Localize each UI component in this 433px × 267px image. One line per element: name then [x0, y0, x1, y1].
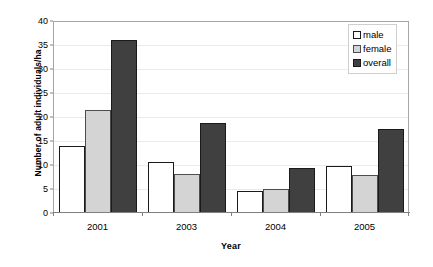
y-axis-tick-labels: 0510152025303540 [26, 0, 48, 267]
legend-label: female [363, 44, 392, 54]
x-axis-tick-mark [320, 213, 321, 216]
bar-female-2003 [174, 174, 200, 213]
legend-swatch-female-icon [353, 45, 361, 53]
bar-overall-2001 [111, 40, 137, 213]
bar-male-2001 [59, 146, 85, 213]
legend-swatch-male-icon [353, 31, 361, 39]
legend-item-male[interactable]: male [353, 28, 392, 42]
x-axis-tick-mark [142, 213, 143, 216]
x-axis-tick-mark [408, 213, 409, 216]
bar-chart: Number of adult individuals/ha 051015202… [0, 0, 433, 267]
x-axis-title: Year [53, 241, 409, 251]
legend-label: male [363, 30, 384, 40]
x-axis-tick-marks [53, 213, 409, 217]
y-axis-tick-label: 15 [26, 137, 48, 146]
bar-overall-2004 [289, 168, 315, 213]
bar-female-2004 [263, 189, 289, 213]
legend-label: overall [363, 58, 391, 68]
x-axis-tick-mark [231, 213, 232, 216]
bar-male-2005 [326, 166, 352, 213]
legend-item-overall[interactable]: overall [353, 56, 392, 70]
y-axis-tick-label: 40 [26, 17, 48, 26]
bar-group [237, 21, 315, 213]
bar-male-2003 [148, 162, 174, 213]
y-axis-tick-label: 0 [26, 209, 48, 218]
y-axis-tick-label: 35 [26, 41, 48, 50]
x-axis-tick-label: 2003 [152, 221, 222, 233]
y-axis-tick-label: 10 [26, 161, 48, 170]
bar-male-2004 [237, 191, 263, 213]
bar-group [148, 21, 226, 213]
bar-female-2001 [85, 110, 111, 213]
y-axis-tick-label: 20 [26, 113, 48, 122]
bar-overall-2005 [378, 129, 404, 213]
bar-female-2005 [352, 175, 378, 213]
chart-legend: malefemaleoverall [348, 24, 397, 74]
y-axis-tick-label: 5 [26, 185, 48, 194]
x-axis-tick-label: 2001 [63, 221, 133, 233]
x-axis-tick-label: 2005 [330, 221, 400, 233]
y-axis-tick-label: 25 [26, 89, 48, 98]
x-axis-tick-label: 2004 [241, 221, 311, 233]
x-axis-tick-mark [53, 213, 54, 216]
bar-overall-2003 [200, 123, 226, 213]
bar-group [59, 21, 137, 213]
legend-swatch-overall-icon [353, 59, 361, 67]
legend-item-female[interactable]: female [353, 42, 392, 56]
x-axis-tick-labels: 2001200320042005 [53, 221, 409, 235]
y-axis-tick-label: 30 [26, 65, 48, 74]
